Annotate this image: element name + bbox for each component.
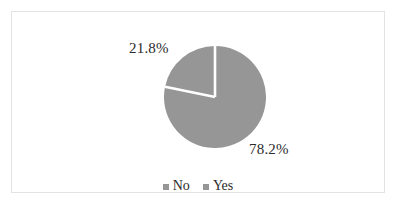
data-label-yes-percent: 21.8%: [129, 41, 169, 56]
legend-item-no[interactable]: No: [163, 179, 190, 193]
legend-item-yes[interactable]: Yes: [203, 179, 233, 193]
pie-chart-svg: [164, 46, 266, 148]
data-label-no-percent: 78.2%: [249, 142, 289, 157]
legend-swatch-yes-icon: [203, 184, 209, 190]
chart-frame: 21.8% 78.2% No Yes: [11, 11, 385, 193]
legend-swatch-no-icon: [163, 184, 169, 190]
legend-label-no: No: [173, 179, 190, 193]
pie-chart: [164, 46, 266, 148]
legend-label-yes: Yes: [213, 179, 233, 193]
chart-legend: No Yes: [12, 179, 384, 193]
